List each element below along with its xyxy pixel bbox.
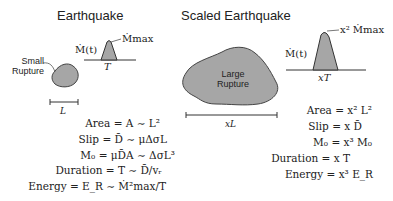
large-rupture-label-line2: Rupture	[208, 79, 258, 89]
large-rupture-label-line1: Large	[208, 69, 258, 79]
left-eq-duration: Duration = T ∼ D̄/vᵣ	[20, 164, 162, 176]
left-peak-label: Ṁmax	[122, 33, 153, 44]
left-eq-moment: M₀ = μD̄A ∼ ΔσL³	[20, 149, 175, 161]
left-duration-label: T	[104, 61, 111, 72]
right-eq-moment: M₀ = x³ M₀	[280, 136, 372, 148]
left-eq-area: Area = A ∼ L²	[20, 117, 160, 129]
right-moment-rate-label: Ṁ(t)	[285, 48, 307, 59]
large-rupture-label: Large Rupture	[208, 69, 258, 89]
small-rupture-shape	[52, 64, 78, 87]
earthquake-title: Earthquake	[57, 8, 124, 23]
small-rupture-label-line2: Rupture	[12, 66, 44, 76]
left-eq-slip: Slip = D̄ ∼ μΔσL	[20, 133, 167, 145]
small-rupture-label-line1: Small	[12, 56, 44, 66]
small-moment-pulse	[101, 41, 117, 61]
small-rupture-leader	[43, 63, 55, 72]
right-duration-label: xT	[318, 72, 330, 83]
left-moment-rate-label: Ṁ(t)	[75, 44, 97, 55]
small-rupture-label: Small Rupture	[12, 56, 44, 76]
left-eq-energy: Energy = E_R ∼ Ṁ²max/T	[20, 180, 166, 192]
right-eq-slip: Slip = x D̄	[280, 120, 362, 132]
right-length-label: xL	[225, 119, 236, 129]
large-moment-pulse	[313, 32, 338, 70]
scaled-earthquake-title: Scaled Earthquake	[181, 8, 291, 23]
right-eq-duration: Duration = x T	[260, 152, 350, 164]
left-length-label: L	[60, 106, 66, 116]
right-eq-energy: Energy = x³ E_R	[260, 168, 373, 180]
right-eq-area: Area = x² L²	[280, 104, 372, 116]
right-peak-label: x² Ṁmax	[340, 24, 384, 35]
